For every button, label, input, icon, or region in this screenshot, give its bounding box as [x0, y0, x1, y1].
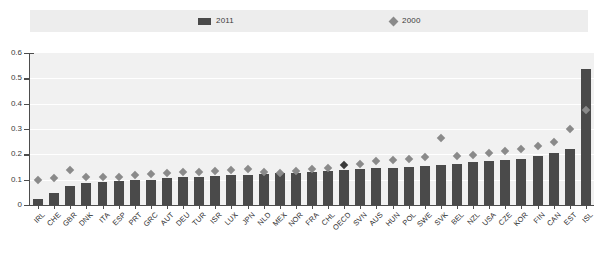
bar [500, 160, 510, 205]
scatter-marker [34, 176, 42, 184]
scatter-marker [66, 166, 74, 174]
bar [146, 180, 156, 205]
x-axis-tick [425, 206, 426, 209]
square-marker-icon [198, 18, 211, 25]
y-axis-tick-label: 0 [0, 201, 22, 209]
legend-label: 2011 [216, 17, 234, 25]
scatter-marker [243, 165, 251, 173]
bar [533, 156, 543, 205]
scatter-marker [82, 172, 90, 180]
bar-group [175, 53, 191, 205]
bar [323, 171, 333, 205]
bar-group [94, 53, 110, 205]
x-axis-tick [457, 206, 458, 209]
x-axis-tick-label: ISR [209, 211, 223, 225]
bar-group [30, 53, 46, 205]
bar-group [352, 53, 368, 205]
x-axis-tick [393, 206, 394, 209]
x-axis-tick [264, 206, 265, 209]
bar [275, 173, 285, 205]
bar-group [320, 53, 336, 205]
x-axis-tick [280, 206, 281, 209]
x-axis-tick [151, 206, 152, 209]
scatter-marker [533, 142, 541, 150]
scatter-marker [50, 174, 58, 182]
y-axis-tick-label: 0.2 [0, 150, 22, 158]
bar-group [78, 53, 94, 205]
scatter-marker [453, 152, 461, 160]
x-axis-tick [312, 206, 313, 209]
bar [549, 153, 559, 205]
bar [468, 162, 478, 205]
y-axis-tick-label: 0.3 [0, 125, 22, 133]
bar [194, 177, 204, 205]
bar-group [513, 53, 529, 205]
scatter-marker [114, 172, 122, 180]
bar [33, 199, 43, 205]
x-axis-tick [103, 206, 104, 209]
scatter-marker [179, 168, 187, 176]
bar-group [578, 53, 594, 205]
bar-group [143, 53, 159, 205]
scatter-marker [388, 156, 396, 164]
chart-legend: 2011 2000 [30, 10, 588, 32]
bar [355, 169, 365, 205]
bar [259, 174, 269, 205]
data-series-group [30, 53, 594, 205]
scatter-marker [437, 134, 445, 142]
x-axis-tick-label: DEU [175, 211, 191, 227]
x-axis-tick [296, 206, 297, 209]
x-axis-tick-label: FIN [532, 211, 546, 225]
scatter-marker [501, 146, 509, 154]
x-axis-tick-label: ISL [581, 211, 594, 224]
bar-group [191, 53, 207, 205]
y-axis-labels: 0.60.50.40.30.20.10 [0, 53, 22, 205]
bar [484, 161, 494, 205]
bar-group [239, 53, 255, 205]
x-axis-tick-label: POL [401, 211, 417, 227]
y-axis-tick [24, 78, 29, 79]
x-axis-tick-label: HUN [384, 211, 401, 228]
x-axis-tick-label: SVK [433, 211, 449, 227]
x-axis-tick-label: CZE [498, 211, 514, 227]
scatter-marker [163, 168, 171, 176]
bar [226, 175, 236, 205]
bar-group [385, 53, 401, 205]
bar-group [562, 53, 578, 205]
bar [371, 168, 381, 205]
x-axis-tick [376, 206, 377, 209]
x-axis-tick [119, 206, 120, 209]
x-axis-tick-label: AUT [159, 211, 175, 227]
x-axis-tick-label: SVN [352, 211, 368, 227]
bar [516, 159, 526, 205]
x-axis-tick-label: USA [481, 211, 497, 227]
x-axis-tick [489, 206, 490, 209]
x-axis-tick [554, 206, 555, 209]
bar [307, 172, 317, 205]
x-axis-tick [167, 206, 168, 209]
y-axis-tick [24, 154, 29, 155]
x-axis-tick-label: TUR [191, 211, 207, 227]
x-axis-tick-label: FRA [304, 211, 320, 227]
x-axis-labels: IRLCHEGBRDNKITAESPPRTGRCAUTDEUTURISRLUXJ… [30, 211, 594, 257]
scatter-marker [372, 157, 380, 165]
x-axis-tick-label: SWE [416, 211, 433, 228]
x-axis-tick [215, 206, 216, 209]
bar-group [481, 53, 497, 205]
scatter-marker [404, 155, 412, 163]
scatter-marker [517, 145, 525, 153]
bar [436, 165, 446, 205]
x-axis-tick-label: IRL [33, 211, 47, 225]
x-axis-tick [521, 206, 522, 209]
x-axis-tick-label: NOR [287, 211, 304, 228]
x-axis-tick [248, 206, 249, 209]
legend-item-2000: 2000 [390, 10, 421, 32]
bar-group [159, 53, 175, 205]
bar [81, 183, 91, 205]
bar [98, 182, 108, 205]
bar [178, 177, 188, 205]
x-axis-tick [570, 206, 571, 209]
bar-group [530, 53, 546, 205]
bar-group [368, 53, 384, 205]
x-axis-tick [38, 206, 39, 209]
